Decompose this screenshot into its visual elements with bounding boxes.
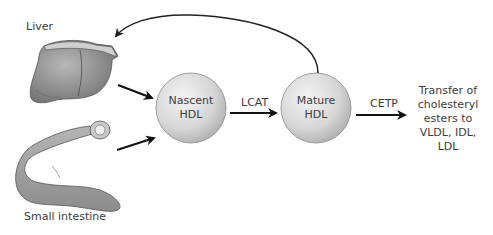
outcome-line-4: VLDL, IDL, — [408, 126, 488, 140]
arrow-liver-to-nascent-hdl — [118, 85, 152, 98]
arrow-intestine-to-nascent-hdl — [117, 138, 154, 150]
nascent-hdl-line2: HDL — [161, 108, 221, 122]
mature-hdl-line1: Mature — [286, 94, 346, 108]
outcome-line-1: Transfer of — [408, 84, 488, 98]
mature-hdl-label: Mature HDL — [286, 94, 346, 122]
liver-label: Liver — [26, 20, 53, 33]
outcome-text: Transfer of cholesteryl esters to VLDL, … — [408, 84, 488, 154]
outcome-line-3: esters to — [408, 112, 488, 126]
small-intestine-label: Small intestine — [24, 210, 106, 223]
small-intestine-illustration — [16, 121, 120, 211]
nascent-hdl-line1: Nascent — [161, 94, 221, 108]
arrow-mature-hdl-to-liver — [116, 15, 318, 73]
cetp-label: CETP — [370, 97, 398, 110]
hdl-metabolism-diagram: Liver Small intestine Nascent HDL Mature… — [0, 0, 493, 235]
outcome-line-2: cholesteryl — [408, 98, 488, 112]
lcat-label: LCAT — [241, 96, 268, 109]
mature-hdl-line2: HDL — [286, 108, 346, 122]
nascent-hdl-label: Nascent HDL — [161, 94, 221, 122]
outcome-line-5: LDL — [408, 140, 488, 154]
liver-illustration — [30, 40, 118, 102]
